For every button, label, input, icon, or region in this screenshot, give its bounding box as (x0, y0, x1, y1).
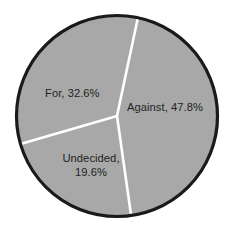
pie-label-for: For, 32.6% (45, 87, 100, 101)
pie-chart-graphic (0, 0, 234, 231)
pie-label-undecided: Undecided, 19.6% (57, 152, 125, 179)
pie-chart: Against, 47.8% For, 32.6% Undecided, 19.… (0, 0, 234, 231)
pie-label-against: Against, 47.8% (127, 101, 203, 115)
